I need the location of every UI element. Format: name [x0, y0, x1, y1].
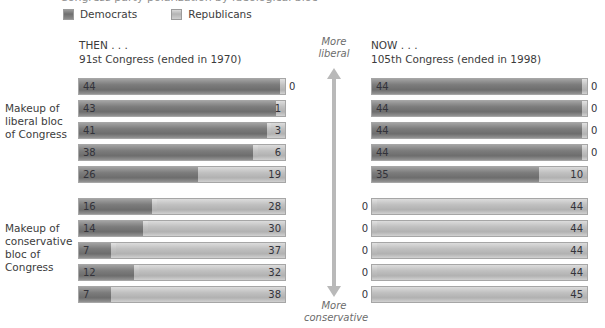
bar-segment-republicans	[377, 221, 587, 236]
bar-panel-then-liberal: 4404314133862619	[78, 78, 286, 188]
bar-segment-republicans	[377, 243, 587, 258]
column-subtitle-then: 91st Congress (ended in 1970)	[79, 52, 241, 66]
legend-label-democrats: Democrats	[80, 8, 137, 20]
bar-value-democrats: 44	[376, 102, 389, 116]
column-subtitle-now: 105th Congress (ended in 1998)	[371, 52, 541, 66]
bar-value-democrats: 35	[376, 168, 389, 182]
bar-value-republicans: 1	[275, 102, 281, 116]
bar-value-democrats: 44	[376, 80, 389, 94]
axis-shaft	[332, 78, 336, 288]
bar-value-democrats: 0	[362, 266, 368, 280]
bar-value-republicans: 0	[591, 146, 597, 160]
bar-value-democrats: 44	[376, 124, 389, 138]
bar-value-republicans: 0	[591, 102, 597, 116]
bar-row: 386	[78, 144, 286, 161]
bar-row: 044	[371, 264, 588, 281]
bar-segment-democrats	[79, 79, 280, 94]
column-heading-then: THEN . . . 91st Congress (ended in 1970)	[79, 38, 241, 66]
column-heading-now: NOW . . . 105th Congress (ended in 1998)	[371, 38, 541, 66]
bar-value-republicans: 0	[289, 80, 295, 94]
bar-value-republicans: 30	[268, 222, 281, 236]
bar-value-republicans: 6	[275, 146, 281, 160]
bar-value-democrats: 44	[83, 80, 96, 94]
legend-item-democrats: Democrats	[63, 8, 137, 20]
bar-value-republicans: 44	[570, 266, 583, 280]
bar-value-democrats: 0	[362, 244, 368, 258]
bar-row: 044	[371, 198, 588, 215]
bar-value-republicans: 45	[570, 288, 583, 302]
bar-value-democrats: 43	[83, 102, 96, 116]
ideology-axis: More liberal More conservative	[304, 36, 364, 324]
bar-segment-democrats	[372, 79, 582, 94]
bar-segment-democrats	[372, 167, 539, 182]
bar-value-republicans: 0	[591, 124, 597, 138]
bar-row: 440	[371, 122, 588, 139]
bar-segment-democrats	[79, 145, 253, 160]
bar-value-democrats: 0	[362, 200, 368, 214]
bar-segment-democrats	[79, 101, 276, 116]
bar-row: 3510	[371, 166, 588, 183]
legend-item-republicans: Republicans	[171, 8, 251, 20]
chart-title-strip: Congress party polarization by ideologic…	[0, 0, 605, 7]
bar-row: 413	[78, 122, 286, 139]
axis-caption-conservative-line2: conservative	[304, 312, 364, 324]
bar-value-republicans: 10	[570, 168, 583, 182]
bar-value-republicans: 19	[268, 168, 281, 182]
bar-value-republicans: 37	[268, 244, 281, 258]
axis-caption-liberal-line2: liberal	[304, 48, 364, 60]
bar-segment-democrats	[372, 101, 582, 116]
bar-value-democrats: 38	[83, 146, 96, 160]
bar-segment-republicans	[116, 243, 285, 258]
bar-value-republicans: 38	[268, 288, 281, 302]
bar-value-republicans: 28	[268, 200, 281, 214]
bar-row: 440	[371, 100, 588, 117]
bar-row: 738	[78, 286, 286, 303]
axis-caption-conservative: More conservative	[304, 300, 364, 324]
bar-row: 1430	[78, 220, 286, 237]
bar-segment-republicans	[139, 265, 285, 280]
bar-panel-now-conservative: 044044044044045	[371, 198, 588, 308]
bar-value-republicans: 3	[275, 124, 281, 138]
bar-panel-now-liberal: 4404404404403510	[371, 78, 588, 188]
page-title: Congress party polarization by ideologic…	[60, 0, 318, 4]
bar-row: 045	[371, 286, 588, 303]
rep-swatch-icon	[171, 9, 182, 20]
bar-row: 044	[371, 220, 588, 237]
bar-row: 431	[78, 100, 286, 117]
bar-segment-republicans	[280, 101, 285, 116]
bar-row: 2619	[78, 166, 286, 183]
bar-segment-democrats	[372, 145, 582, 160]
bar-panel-then-conservative: 162814307371232738	[78, 198, 286, 308]
bar-value-democrats: 14	[83, 222, 96, 236]
bar-segment-democrats	[79, 167, 198, 182]
axis-caption-conservative-line1: More	[304, 300, 364, 312]
bar-value-republicans: 32	[268, 266, 281, 280]
bar-row: 1232	[78, 264, 286, 281]
bar-segment-republicans	[377, 199, 587, 214]
bar-value-democrats: 0	[362, 288, 368, 302]
bar-segment-republicans	[148, 221, 285, 236]
column-eyebrow-then: THEN . . .	[79, 38, 241, 52]
bar-segment-democrats	[79, 123, 267, 138]
bar-value-democrats: 12	[83, 266, 96, 280]
bar-row: 044	[371, 242, 588, 259]
bar-value-democrats: 16	[83, 200, 96, 214]
bar-value-democrats: 41	[83, 124, 96, 138]
dem-swatch-icon	[63, 9, 74, 20]
bar-row: 1628	[78, 198, 286, 215]
bar-value-republicans: 44	[570, 222, 583, 236]
bar-segment-republicans	[372, 287, 587, 302]
bar-row: 440	[371, 144, 588, 161]
bar-value-democrats: 7	[83, 244, 89, 258]
bar-value-democrats: 44	[376, 146, 389, 160]
bar-value-democrats: 0	[362, 222, 368, 236]
bar-segment-republicans	[377, 265, 587, 280]
bar-row: 440	[78, 78, 286, 95]
bar-segment-democrats	[372, 123, 582, 138]
bar-value-republicans: 44	[570, 200, 583, 214]
row-group-label-liberal: Makeup of liberal bloc of Congress	[5, 102, 75, 141]
axis-caption-liberal-line1: More	[304, 36, 364, 48]
bar-value-republicans: 44	[570, 244, 583, 258]
row-group-label-conservative: Makeup of conservative bloc of Congress	[5, 222, 75, 274]
bar-segment-republicans	[157, 199, 285, 214]
